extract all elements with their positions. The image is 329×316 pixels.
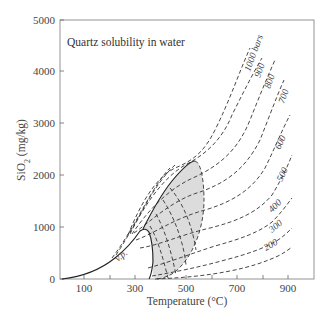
y-tick-labels: 0 1000 2000 3000 4000 5000 xyxy=(33,14,56,285)
quartz-solubility-chart: 0 1000 2000 3000 4000 5000 100 300 500 7… xyxy=(0,0,329,316)
y-tick-5000: 5000 xyxy=(33,14,56,26)
x-axis-title: Temperature (°C) xyxy=(147,295,228,308)
isobar-label-800: 800 xyxy=(262,73,276,90)
x-axis xyxy=(84,275,288,279)
y-axis-title: SiO2 (mg/kg) xyxy=(15,119,32,181)
isobar-label-700: 700 xyxy=(276,88,290,105)
chart-title: Quartz solubility in water xyxy=(67,36,185,49)
isobar-labels: 1000 bars 900 800 700 600 500 400 300 20… xyxy=(242,33,290,253)
x-tick-300: 300 xyxy=(127,282,144,294)
y-axis xyxy=(60,20,64,279)
x-tick-100: 100 xyxy=(76,282,93,294)
y-tick-0: 0 xyxy=(50,273,56,285)
isobar-label-600: 600 xyxy=(273,133,288,150)
y-tick-4000: 4000 xyxy=(33,65,56,77)
isobar-label-500: 500 xyxy=(275,165,290,182)
y-tick-2000: 2000 xyxy=(33,169,56,181)
isobar-label-200: 200 xyxy=(262,237,280,253)
vp-label: v.p. xyxy=(113,248,129,264)
y-tick-1000: 1000 xyxy=(33,221,56,233)
x-tick-labels: 100 300 500 700 900 xyxy=(76,282,297,294)
x-tick-500: 500 xyxy=(178,282,195,294)
x-tick-700: 700 xyxy=(229,282,246,294)
x-tick-900: 900 xyxy=(280,282,297,294)
y-tick-3000: 3000 xyxy=(33,117,56,129)
isobar-label-300: 300 xyxy=(266,218,284,236)
vapor-pressure-curve xyxy=(62,229,153,279)
